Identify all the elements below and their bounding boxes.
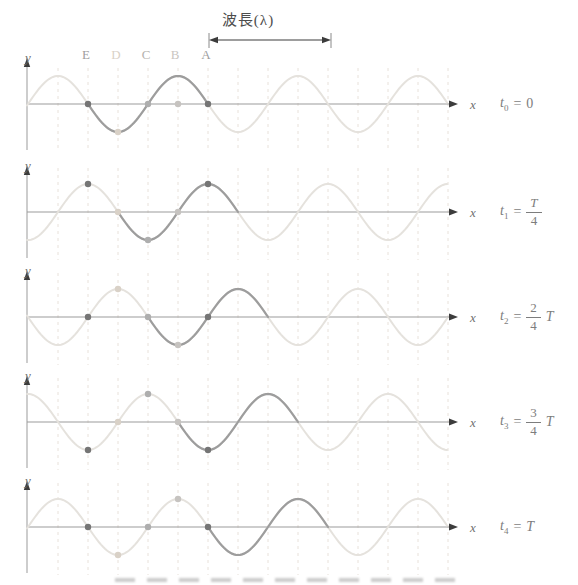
x-axis-arrowhead-icon (449, 101, 458, 108)
particle-dot-C-t2 (145, 314, 151, 320)
time-label-t4: t4=T (500, 509, 534, 545)
arrowhead-left-icon (209, 37, 218, 43)
arrowhead-right-icon (322, 37, 331, 43)
time-label-t0: t0=0 (500, 86, 533, 122)
particle-dot-C-t0 (145, 101, 151, 107)
particle-dot-E-t3 (85, 447, 91, 453)
particle-dot-D-t4 (115, 552, 121, 558)
x-axis-arrowhead-icon (449, 209, 458, 216)
x-axis-label: x (469, 415, 476, 430)
particle-dot-D-t2 (115, 286, 121, 292)
particle-dot-B-t3 (175, 419, 181, 425)
wavelength-label: 波長(λ) (188, 8, 308, 29)
particle-dot-D-t1 (115, 209, 121, 215)
particle-dot-A-t4 (205, 524, 211, 530)
particle-dot-B-t0 (175, 101, 181, 107)
y-axis-label: y (23, 263, 31, 278)
point-label-B: B (165, 48, 185, 62)
particle-dot-E-t2 (85, 314, 91, 320)
particle-dot-E-t0 (85, 101, 91, 107)
x-axis-label: x (469, 310, 476, 325)
y-axis-label: y (23, 50, 31, 65)
time-label-t2: t2=24T (500, 299, 554, 335)
particle-dot-C-t1 (145, 237, 151, 243)
wave-panel-t3: xy (23, 368, 476, 470)
particle-dot-C-t4 (145, 524, 151, 530)
particle-dot-A-t2 (205, 314, 211, 320)
wave-propagation-figure: xyxyxyxyxy 波長(λ) EDCBAt0=0t1=T4t2=24Tt3=… (0, 0, 578, 585)
x-axis-arrowhead-icon (449, 419, 458, 426)
wave-panel-t2: xy (23, 263, 476, 365)
wave-panel-t0: xy (23, 50, 476, 152)
particle-dot-B-t2 (175, 342, 181, 348)
particle-dot-E-t4 (85, 524, 91, 530)
particle-dot-A-t3 (205, 447, 211, 453)
x-axis-label: x (469, 97, 476, 112)
particle-dot-B-t1 (175, 209, 181, 215)
wave-panel-t1: xy (23, 158, 476, 260)
y-axis-label: y (23, 473, 31, 488)
wave-panel-t4: xy (23, 473, 476, 575)
x-axis-arrowhead-icon (449, 524, 458, 531)
particle-dot-E-t1 (85, 181, 91, 187)
point-label-E: E (76, 48, 96, 62)
point-label-A: A (196, 48, 216, 62)
x-axis-label: x (469, 520, 476, 535)
y-axis-label: y (23, 158, 31, 173)
time-label-t1: t1=T4 (500, 194, 542, 230)
particle-dot-A-t1 (205, 181, 211, 187)
particle-dot-D-t0 (115, 129, 121, 135)
point-label-C: C (136, 48, 156, 62)
particle-dot-D-t3 (115, 419, 121, 425)
particle-dot-C-t3 (145, 391, 151, 397)
point-label-D: D (106, 48, 126, 62)
wave-diagram-scene: xyxyxyxyxy (0, 0, 578, 585)
y-axis-label: y (23, 368, 31, 383)
x-axis-label: x (469, 205, 476, 220)
wavelength-arrow (209, 33, 331, 48)
particle-dot-A-t0 (205, 101, 211, 107)
particle-dot-B-t4 (175, 496, 181, 502)
cropped-caption-artifact (115, 578, 462, 582)
x-axis-arrowhead-icon (449, 314, 458, 321)
time-label-t3: t3=34T (500, 404, 554, 440)
